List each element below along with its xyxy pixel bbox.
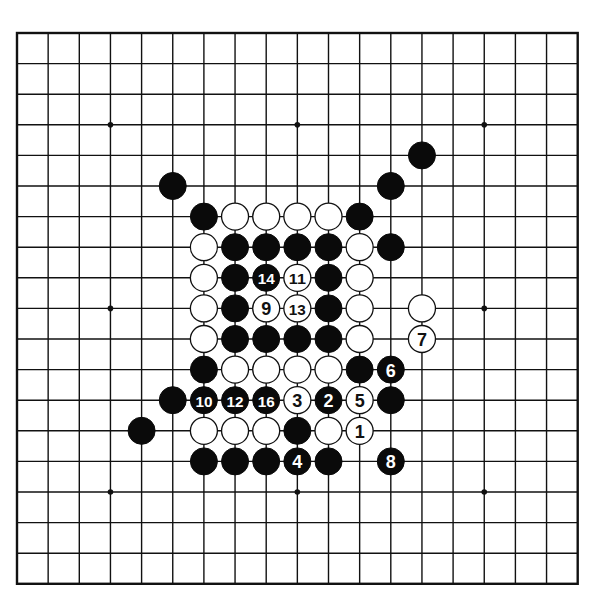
star-point <box>295 489 301 495</box>
black-stone <box>222 295 249 322</box>
white-stone-disc <box>222 356 249 383</box>
black-stone <box>315 448 342 475</box>
black-stone-disc <box>284 326 311 353</box>
black-stone: 14 <box>253 264 280 291</box>
move-number-label: 10 <box>195 393 212 410</box>
star-point <box>108 489 114 495</box>
go-board[interactable]: 141191376101216325148 <box>0 0 589 609</box>
black-stone-disc <box>222 234 249 261</box>
black-stone-disc <box>222 326 249 353</box>
white-stone-disc <box>346 326 373 353</box>
white-stone <box>346 234 373 261</box>
black-stone: 2 <box>315 387 342 414</box>
white-stone-disc <box>284 356 311 383</box>
black-stone-disc <box>377 234 404 261</box>
white-stone: 5 <box>346 387 373 414</box>
black-stone-disc <box>315 234 342 261</box>
black-stone-disc <box>315 326 342 353</box>
white-stone-disc <box>408 295 435 322</box>
black-stone: 12 <box>222 387 249 414</box>
black-stone <box>222 234 249 261</box>
black-stone <box>284 234 311 261</box>
white-stone-disc <box>190 295 217 322</box>
black-stone <box>408 142 435 169</box>
black-stone <box>346 203 373 230</box>
black-stone-disc <box>346 203 373 230</box>
white-stone-disc <box>190 417 217 444</box>
white-stone: 13 <box>284 295 311 322</box>
white-stone <box>284 203 311 230</box>
white-stone-disc <box>284 203 311 230</box>
black-stone-disc <box>190 203 217 230</box>
move-number-label: 16 <box>258 393 275 410</box>
move-number-label: 2 <box>323 391 333 411</box>
white-stone <box>315 203 342 230</box>
white-stone <box>315 356 342 383</box>
white-stone <box>222 356 249 383</box>
black-stone <box>222 264 249 291</box>
black-stone-disc <box>222 295 249 322</box>
white-stone-disc <box>315 417 342 444</box>
black-stone <box>190 356 217 383</box>
black-stone <box>190 203 217 230</box>
white-stone-disc <box>315 356 342 383</box>
move-number-label: 12 <box>227 393 244 410</box>
white-stone-disc <box>315 203 342 230</box>
black-stone-disc <box>190 356 217 383</box>
black-stone-disc <box>377 387 404 414</box>
white-stone: 9 <box>253 295 280 322</box>
black-stone: 10 <box>190 387 217 414</box>
star-point <box>108 122 114 128</box>
black-stone-disc <box>222 448 249 475</box>
white-stone <box>253 417 280 444</box>
black-stone-disc <box>159 173 186 200</box>
star-point <box>481 306 487 312</box>
black-stone-disc <box>159 387 186 414</box>
black-stone-disc <box>284 234 311 261</box>
white-stone <box>346 264 373 291</box>
move-number-label: 4 <box>292 452 302 472</box>
black-stone <box>377 387 404 414</box>
white-stone <box>190 264 217 291</box>
white-stone <box>253 356 280 383</box>
black-stone-disc <box>222 264 249 291</box>
black-stone <box>253 448 280 475</box>
black-stone <box>253 234 280 261</box>
star-point <box>481 122 487 128</box>
white-stone-disc <box>190 326 217 353</box>
black-stone <box>346 356 373 383</box>
white-stone <box>315 417 342 444</box>
white-stone-disc <box>253 203 280 230</box>
white-stone <box>190 326 217 353</box>
black-stone <box>253 326 280 353</box>
black-stone <box>377 173 404 200</box>
black-stone <box>190 448 217 475</box>
white-stone: 1 <box>346 417 373 444</box>
white-stone-disc <box>190 264 217 291</box>
white-stone <box>253 203 280 230</box>
black-stone <box>315 264 342 291</box>
black-stone <box>128 417 155 444</box>
black-stone: 6 <box>377 356 404 383</box>
black-stone <box>222 448 249 475</box>
star-point <box>295 122 301 128</box>
move-number-label: 1 <box>355 422 365 442</box>
white-stone: 11 <box>284 264 311 291</box>
black-stone <box>315 295 342 322</box>
black-stone-disc <box>315 448 342 475</box>
black-stone <box>377 234 404 261</box>
white-stone-disc <box>346 264 373 291</box>
black-stone-disc <box>315 264 342 291</box>
white-stone-disc <box>346 295 373 322</box>
black-stone-disc <box>253 448 280 475</box>
white-stone <box>408 295 435 322</box>
black-stone <box>315 234 342 261</box>
move-number-label: 13 <box>289 301 306 318</box>
move-number-label: 11 <box>289 270 306 287</box>
black-stone <box>159 173 186 200</box>
white-stone-disc <box>190 234 217 261</box>
move-number-label: 6 <box>386 361 396 381</box>
move-number-label: 9 <box>261 299 271 319</box>
move-number-label: 14 <box>258 270 276 287</box>
white-stone <box>284 356 311 383</box>
